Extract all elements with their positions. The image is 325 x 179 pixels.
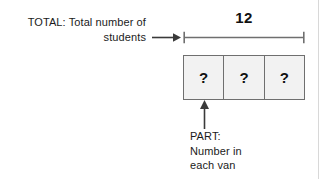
total-label-line-1: TOTAL: Total number of — [18, 15, 146, 30]
total-label: TOTAL: Total number of students — [18, 15, 146, 44]
part-boxes-row: ? ? ? — [183, 55, 305, 100]
part-label-line-3: each van — [190, 158, 300, 173]
part-box[interactable]: ? — [265, 56, 304, 99]
part-label-line-1: PART: — [190, 129, 300, 144]
total-value: 12 — [183, 9, 305, 26]
bar-model-diagram: TOTAL: Total number of students 12 ? ? ?… — [0, 0, 325, 179]
arrow-right-icon — [152, 32, 181, 43]
measure-bracket-icon — [183, 31, 305, 44]
page-right-border — [318, 0, 319, 179]
part-label: PART: Number in each van — [190, 129, 300, 173]
part-label-line-2: Number in — [190, 144, 300, 159]
part-box[interactable]: ? — [224, 56, 264, 99]
total-label-line-2: students — [18, 30, 146, 45]
arrow-up-icon — [198, 100, 211, 129]
part-box[interactable]: ? — [184, 56, 224, 99]
